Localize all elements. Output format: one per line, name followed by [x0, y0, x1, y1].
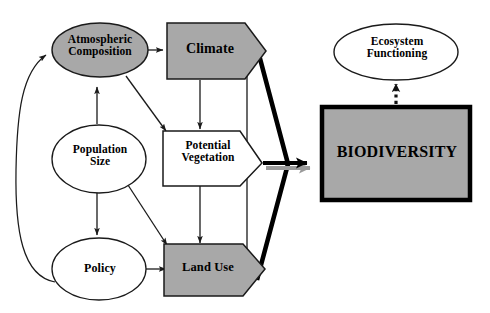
node-policy[interactable]	[52, 238, 146, 300]
node-climate[interactable]	[167, 23, 266, 79]
node-biodiversity[interactable]	[322, 107, 470, 200]
diagram-graphics	[0, 0, 490, 313]
node-population-size[interactable]	[52, 125, 146, 193]
node-atmospheric-composition[interactable]	[52, 23, 148, 77]
bracket-drivers-to-biodiversity	[257, 51, 288, 280]
node-ecosystem-functioning[interactable]	[334, 24, 458, 80]
edge-atmospheric-to-vegetation	[126, 76, 166, 131]
diagram-canvas: Atmospheric Composition Population Size …	[0, 0, 490, 313]
edge-policy-to-atmospheric	[16, 55, 55, 282]
node-land-use[interactable]	[164, 244, 265, 296]
edge-population-to-landuse	[128, 185, 167, 245]
